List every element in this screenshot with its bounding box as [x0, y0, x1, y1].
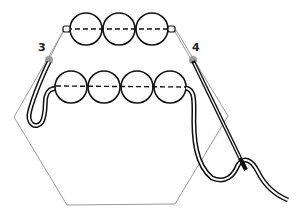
top-bead-row	[63, 13, 175, 45]
point-4-label: 4	[192, 41, 200, 54]
thread-line-right	[174, 30, 192, 61]
beading-diagram	[0, 0, 305, 219]
point-3-label: 3	[38, 41, 46, 54]
thread-right	[186, 88, 288, 200]
bottom-bead-row	[55, 71, 187, 103]
needle-icon	[193, 61, 246, 170]
